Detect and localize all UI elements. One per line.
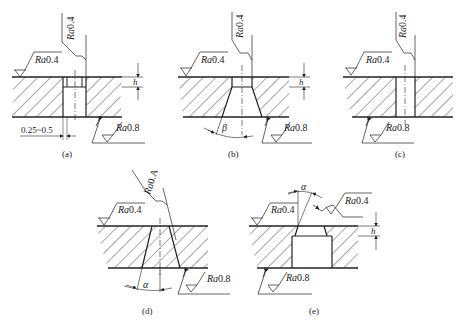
- roughness-top-c: Ra0.4: [365, 54, 390, 65]
- dimension-h-b: h: [299, 77, 304, 87]
- dimension-width-a: 0.25~0.5: [21, 125, 53, 135]
- roughness-bottom-d: Ra0.8: [206, 273, 231, 284]
- roughness-bottom-e: Ra0.8: [285, 272, 310, 283]
- roughness-wall-d: Ra0.A: [141, 167, 160, 197]
- panel-b: h Ra0.4 Ra0.4 Ra0.8 β (b): [178, 12, 312, 159]
- dimension-h-a: h: [133, 77, 138, 87]
- dimension-h-e: h: [371, 226, 376, 236]
- caption-b: (b): [228, 149, 239, 159]
- caption-a: (a): [62, 149, 72, 159]
- roughness-bottom-c: Ra0.8: [385, 122, 410, 133]
- roughness-chamfer-e: Ra0.4: [344, 195, 369, 206]
- panel-d: Ra0.4 Ra0.A Ra0.8 α (d): [97, 167, 231, 316]
- panel-e: h Ra0.4 Ra0.4 α Ra0.8 (e): [249, 181, 380, 316]
- angle-alpha-d: α: [143, 279, 149, 290]
- caption-c: (c): [395, 149, 405, 159]
- roughness-top-b: Ra0.4: [200, 54, 225, 65]
- roughness-top-e: Ra0.4: [270, 204, 295, 215]
- roughness-bottom-a: Ra0.8: [115, 122, 140, 133]
- angle-alpha-e: α: [301, 181, 307, 192]
- caption-d: (d): [142, 306, 153, 316]
- roughness-top-a: Ra0.4: [34, 54, 59, 65]
- roughness-wall-b: Ra0.4: [234, 14, 245, 39]
- technical-drawing: h Ra0.4 Ra0.4 Ra0.8 0.25~0.5 (a): [0, 0, 462, 328]
- roughness-wall-a: Ra0.4: [65, 16, 76, 41]
- angle-beta: β: [221, 122, 227, 133]
- panel-a: h Ra0.4 Ra0.4 Ra0.8 0.25~0.5 (a): [12, 13, 145, 159]
- roughness-bottom-b: Ra0.8: [283, 122, 308, 133]
- roughness-wall-c: Ra0.4: [397, 14, 408, 39]
- caption-e: (e): [309, 306, 319, 316]
- roughness-top-d: Ra0.4: [117, 204, 142, 215]
- panel-c: Ra0.4 Ra0.4 Ra0.8 (c): [343, 12, 453, 159]
